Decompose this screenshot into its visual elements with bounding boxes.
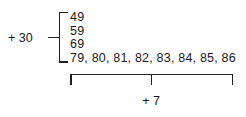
left-brace-center-tick [48,37,59,39]
left-brace-top-arm [59,12,68,14]
number-row: 59 [70,25,84,37]
left-brace-bottom-arm [59,61,68,63]
bottom-brace-center-tick [151,74,153,85]
bottom-group-label-text: + 7 [142,94,160,108]
bottom-brace-left-arm [70,74,72,85]
bottom-brace-right-arm [232,74,234,85]
left-group-label: + 30 [8,32,33,44]
number-row: 49 [70,11,84,23]
number-row: 69 [70,38,84,50]
number-row: 79, 80, 81, 82, 83, 84, 85, 86 [70,52,236,64]
grouping-diagram: + 30 49 59 69 79, 80, 81, 82, 83, 84, 85… [0,0,246,117]
bottom-group-label: + 7 [0,95,246,107]
